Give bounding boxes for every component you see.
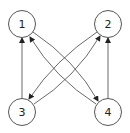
edge-4-to-1: [30, 37, 96, 104]
edge-1-to-4: [33, 32, 98, 101]
node-label: 1: [19, 18, 26, 31]
graph-diagram: 1 2 3 4: [0, 0, 130, 133]
edge-2-to-3: [29, 32, 97, 99]
node-3: 3: [9, 99, 36, 126]
node-label: 3: [19, 106, 26, 119]
node-label: 2: [105, 18, 112, 31]
node-4: 4: [95, 99, 122, 126]
edge-3-to-2: [34, 36, 100, 104]
node-1: 1: [9, 11, 36, 38]
node-2: 2: [95, 11, 122, 38]
node-label: 4: [105, 106, 112, 119]
